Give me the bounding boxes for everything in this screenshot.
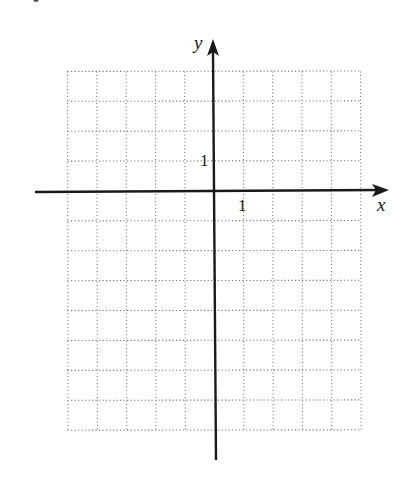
grid-line-vertical bbox=[273, 71, 274, 430]
y-tick-label-1: 1 bbox=[200, 152, 209, 169]
y-axis-label: y bbox=[194, 33, 202, 52]
grid-line-vertical bbox=[185, 71, 186, 430]
grid-line-vertical bbox=[331, 71, 332, 430]
grid-line-vertical bbox=[126, 71, 127, 430]
x-tick-label-1: 1 bbox=[238, 197, 247, 214]
x-axis bbox=[35, 190, 378, 192]
grid-line-vertical bbox=[361, 71, 362, 430]
axes bbox=[35, 39, 389, 460]
y-axis bbox=[213, 52, 216, 460]
x-axis-label: x bbox=[377, 195, 385, 214]
coordinate-grid bbox=[0, 0, 412, 485]
grid-line-vertical bbox=[97, 71, 98, 430]
